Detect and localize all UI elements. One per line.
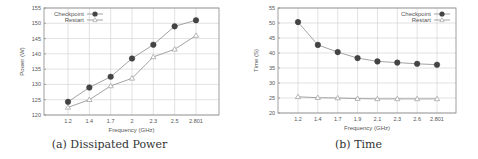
checkpoint-marker [295, 19, 301, 25]
x-tick-label: 2.3 [393, 116, 401, 122]
x-axis-label: Frequency (GHz) [344, 125, 390, 131]
checkpoint-marker [375, 59, 381, 65]
figure-caption: (a) Dissipated Power [0, 138, 229, 151]
y-tick-label: 145 [32, 36, 41, 42]
restart-marker [295, 94, 300, 98]
figure-dissipated-power: 1201251301351401451501551.21.41.722.32.5… [0, 0, 239, 159]
y-tick-label: 30 [269, 80, 275, 86]
checkpoint-marker [129, 56, 135, 62]
x-tick-label: 1.2 [294, 116, 302, 122]
x-tick-label: 2 [130, 118, 133, 124]
y-tick-label: 140 [32, 51, 41, 57]
checkpoint-marker [414, 61, 420, 67]
x-tick-label: 2.5 [171, 118, 179, 124]
figure-time: 20253035404550551.21.41.71.92.12.32.62.8… [239, 0, 478, 159]
checkpoint-marker [65, 99, 71, 105]
y-tick-label: 155 [32, 5, 41, 11]
legend-label: Restart [412, 17, 432, 23]
checkpoint-marker [315, 42, 321, 48]
power-line-chart: 1201251301351401451501551.21.41.722.32.5… [0, 0, 239, 135]
y-tick-label: 55 [269, 5, 275, 11]
x-tick-label: 1.7 [334, 116, 342, 122]
x-tick-label: 2.3 [150, 118, 158, 124]
x-tick-label: 1.4 [86, 118, 94, 124]
checkpoint-marker [434, 62, 440, 68]
y-tick-label: 40 [269, 50, 275, 56]
checkpoint-marker [335, 49, 341, 55]
restart-marker [87, 97, 92, 101]
y-tick-label: 135 [32, 66, 41, 72]
restart-marker [193, 33, 198, 37]
x-tick-label: 1.7 [107, 118, 115, 124]
y-tick-label: 50 [269, 20, 275, 26]
plot-frame [44, 8, 219, 115]
y-tick-label: 25 [269, 95, 275, 101]
checkpoint-marker [355, 55, 361, 61]
checkpoint-marker [87, 85, 93, 91]
checkpoint-marker [172, 24, 178, 30]
time-line-chart: 20253035404550551.21.41.71.92.12.32.62.8… [239, 0, 478, 135]
checkpoint-marker [151, 42, 157, 48]
legend-checkpoint-icon [92, 11, 97, 16]
y-axis-label: Power (W) [19, 47, 25, 75]
y-tick-label: 150 [32, 20, 41, 26]
legend-label: Restart [65, 17, 85, 23]
legend-checkpoint-icon [439, 11, 444, 16]
y-axis-label: Time (S) [253, 49, 259, 72]
x-tick-label: 2.1 [374, 116, 382, 122]
figure-caption: (b) Time [239, 138, 478, 151]
x-tick-label: 2.6 [413, 116, 421, 122]
y-tick-label: 35 [269, 65, 275, 71]
y-tick-label: 45 [269, 35, 275, 41]
restart-marker [172, 47, 177, 51]
y-tick-label: 20 [269, 110, 275, 116]
x-tick-label: 2.801 [189, 118, 203, 124]
x-axis-label: Frequency (GHz) [108, 127, 154, 133]
x-tick-label: 1.4 [314, 116, 322, 122]
y-tick-label: 130 [32, 81, 41, 87]
x-tick-label: 2.801 [430, 116, 444, 122]
checkpoint-marker [394, 60, 400, 66]
x-tick-label: 1.2 [64, 118, 72, 124]
y-tick-label: 120 [32, 112, 41, 118]
checkpoint-marker [193, 17, 199, 23]
x-tick-label: 1.9 [354, 116, 362, 122]
checkpoint-marker [108, 74, 114, 80]
y-tick-label: 125 [32, 97, 41, 103]
